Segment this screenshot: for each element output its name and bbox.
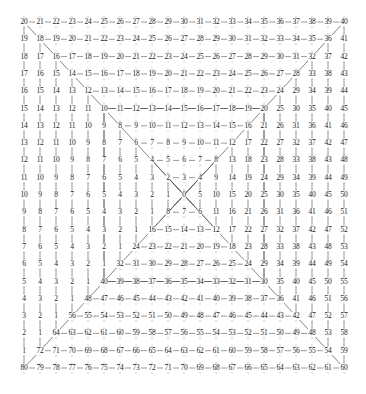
grid-cell: 42	[292, 312, 300, 320]
grid-cell: 56	[340, 295, 348, 303]
grid-cell: 63	[292, 364, 300, 372]
grid-cell: 1	[70, 295, 74, 303]
grid-cell: 35	[292, 191, 300, 199]
grid-cell: 12	[52, 122, 60, 130]
grid-cell: 24	[228, 70, 236, 78]
grid-cell: 5	[38, 260, 42, 268]
grid-cell: 6	[198, 208, 202, 216]
grid-cell: 56	[180, 329, 188, 337]
grid-cell: 28	[180, 260, 188, 268]
grid-cell: 55	[196, 329, 204, 337]
grid-cell: 8	[118, 122, 122, 130]
grid-cell: 1	[86, 278, 90, 286]
grid-cell: 30	[292, 105, 300, 113]
grid-cell: 57	[276, 347, 284, 355]
grid-cell: 20	[116, 53, 124, 61]
grid-cell: 6	[70, 208, 74, 216]
grid-cell: 43	[276, 312, 284, 320]
grid-cell: 32	[308, 53, 316, 61]
grid-cell: 6	[54, 226, 58, 234]
grid-cell: 46	[228, 312, 236, 320]
grid-cell: 22	[164, 243, 172, 251]
grid-cell: 7	[102, 156, 106, 164]
grid-cell: 66	[132, 347, 140, 355]
grid-cell: 53	[116, 312, 124, 320]
grid-cell: 69	[84, 347, 92, 355]
grid-cell: 61	[212, 347, 220, 355]
grid-cell: 8	[38, 208, 42, 216]
grid-cell: 15	[52, 70, 60, 78]
grid-cell: 30	[260, 278, 268, 286]
grid-cell: 24	[180, 53, 188, 61]
grid-cell: 38	[308, 156, 316, 164]
grid-cell: 47	[212, 312, 220, 320]
grid-cell: 68	[100, 347, 108, 355]
grid-cell: 8	[54, 191, 58, 199]
grid-cell: 21	[36, 18, 44, 26]
grid-cell: 18	[36, 35, 44, 43]
grid-cell: 77	[68, 364, 76, 372]
grid-cell: 25	[260, 191, 268, 199]
grid-cell: 6	[182, 156, 186, 164]
grid-cell: 49	[292, 329, 300, 337]
grid-cell: 3	[134, 191, 138, 199]
grid-cell: 57	[340, 312, 348, 320]
grid-cell: 25	[228, 260, 236, 268]
grid-cell: 60	[340, 364, 348, 372]
grid-cell: 29	[276, 174, 284, 182]
grid-cell: 43	[164, 295, 172, 303]
grid-cell: 10	[36, 174, 44, 182]
grid-cell: 41	[340, 35, 348, 43]
grid-cell: 2	[70, 278, 74, 286]
grid-cell: 11	[52, 139, 60, 147]
grid-cell: 34	[244, 18, 252, 26]
grid-cell: 39	[324, 87, 332, 95]
grid-cell: 42	[180, 295, 188, 303]
grid-cell: 31	[292, 53, 300, 61]
grid-cell: 47	[324, 226, 332, 234]
grid-cell: 11	[164, 122, 172, 130]
grid-cell: 35	[308, 105, 316, 113]
grid-cell: 30	[148, 260, 156, 268]
grid-cell: 19	[100, 53, 108, 61]
grid-cell: 10	[68, 139, 76, 147]
grid-cell: 11	[68, 122, 76, 130]
grid-cell: 52	[340, 226, 348, 234]
grid-cell: 58	[148, 329, 156, 337]
grid-cell: 15	[36, 87, 44, 95]
grid-cell: 1	[102, 260, 106, 268]
grid-cell: 41	[308, 208, 316, 216]
grid-cell: 20	[20, 18, 28, 26]
grid-cell: 58	[340, 329, 348, 337]
grid-cell: 10	[100, 105, 108, 113]
grid-cell: 6	[118, 156, 122, 164]
grid-cell: 8	[166, 139, 170, 147]
grid-cell: 15	[228, 122, 236, 130]
grid-cell: 2	[118, 226, 122, 234]
grid-cell: 39	[228, 295, 236, 303]
grid-cell: 80	[20, 364, 28, 372]
grid-cell: 17	[20, 70, 28, 78]
grid-cell: 36	[276, 295, 284, 303]
grid-cell: 40	[340, 18, 348, 26]
grid-cell: 19	[244, 105, 252, 113]
grid-cell: 48	[340, 156, 348, 164]
grid-cell: 34	[308, 87, 316, 95]
grid-cell: 4	[22, 295, 26, 303]
grid-cell: 26	[260, 70, 268, 78]
grid-cell: 3	[22, 312, 26, 320]
grid-cell: 22	[244, 87, 252, 95]
grid-cell: 60	[228, 347, 236, 355]
grid-cell: 36	[292, 208, 300, 216]
grid-cell: 23	[260, 87, 268, 95]
grid-cell: 20	[164, 70, 172, 78]
grid-cell: 36	[164, 278, 172, 286]
grid-cell: 32	[228, 278, 236, 286]
grid-cell: 37	[260, 295, 268, 303]
grid-cell: 7	[22, 243, 26, 251]
grid-cell: 73	[132, 364, 140, 372]
grid-cell: 5	[54, 243, 58, 251]
grid-cell: 5	[86, 208, 90, 216]
grid-cell: 52	[132, 312, 140, 320]
grid-cell: 26	[276, 122, 284, 130]
